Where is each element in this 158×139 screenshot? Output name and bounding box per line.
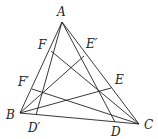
label-point-C: C [144,118,153,132]
label-point-E-prime: E′ [85,37,98,51]
label-point-D-prime: D′ [27,121,41,135]
segment-A-C [62,22,139,124]
label-point-E: E [114,73,124,87]
segment-C-F [51,51,139,124]
label-point-D: D [110,125,121,139]
geometry-diagram: ABCFF′E′ED′D [0,0,158,139]
segment-A-Dp [36,22,62,115]
label-point-F-prime: F′ [17,75,29,89]
segment-A-B [20,22,62,113]
label-point-F: F [37,38,47,52]
label-point-B: B [5,108,15,122]
label-point-A: A [56,5,66,19]
